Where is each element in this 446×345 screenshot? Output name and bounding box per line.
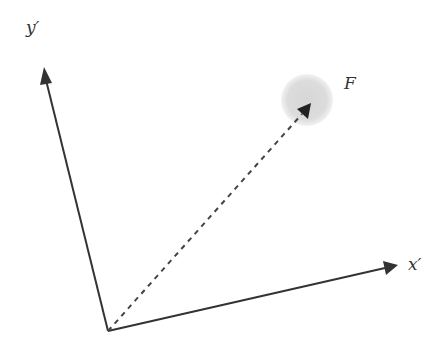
x-axis	[108, 261, 398, 331]
y-axis	[40, 67, 108, 331]
x-axis-label: x′	[408, 254, 422, 274]
y-axis-label: y′	[25, 17, 40, 37]
position-vector	[108, 103, 311, 331]
point-f-label: F	[343, 73, 357, 93]
x-axis-arrowhead-icon	[383, 261, 398, 275]
coordinate-diagram: y′ x′ F	[0, 0, 446, 345]
y-axis-arrowhead-icon	[40, 67, 52, 85]
point-f-blob	[281, 74, 333, 126]
